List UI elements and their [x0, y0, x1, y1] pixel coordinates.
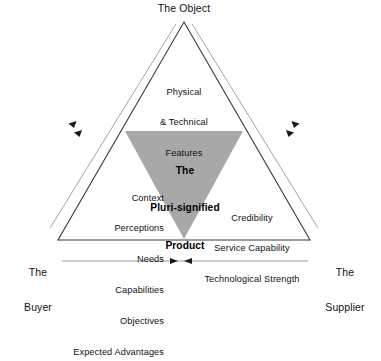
apex-label-the-object: The Object: [134, 3, 234, 15]
buyer-attr-line-2: Perceptions: [24, 223, 164, 233]
arrowhead-left-outer: [69, 121, 77, 128]
supplier-attr-line-2: Service Capability: [194, 243, 310, 253]
top-features-line-1: Physical: [134, 87, 234, 97]
arrowhead-right-inner: [286, 130, 294, 137]
supplier-attributes-block: Credibility Service Capability Technolog…: [194, 192, 310, 305]
buyer-attr-line-6: Expected Advantages: [24, 347, 164, 357]
supplier-attr-line-3: Technological Strength: [194, 274, 310, 284]
corner-buyer-line-1: The: [2, 267, 74, 279]
arrowhead-left-inner: [74, 130, 82, 137]
corner-buyer-line-2: Buyer: [2, 302, 74, 314]
arrowhead-right-outer: [292, 121, 300, 128]
top-features-line-2: & Technical: [134, 117, 234, 127]
corner-label-the-buyer: The Buyer: [2, 243, 74, 337]
corner-label-the-supplier: The Supplier: [310, 243, 380, 337]
corner-supplier-line-2: Supplier: [310, 302, 380, 314]
supplier-attr-line-1: Credibility: [194, 213, 310, 223]
corner-supplier-line-1: The: [310, 267, 380, 279]
buyer-attr-line-1: Context: [24, 193, 164, 203]
